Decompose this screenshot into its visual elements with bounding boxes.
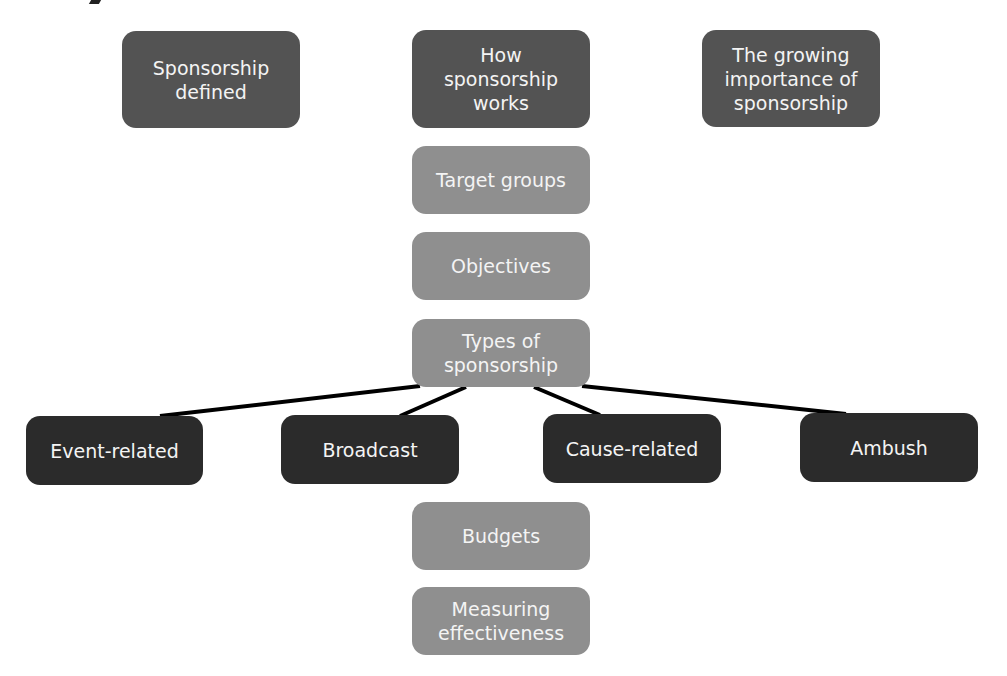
connector-event-related — [160, 386, 420, 416]
node-cause-related: Cause-related — [543, 414, 721, 483]
node-growing-importance: The growing importance of sponsorship — [702, 30, 880, 127]
node-broadcast: Broadcast — [281, 415, 459, 484]
node-types-of-sponsorship: Types of sponsorship — [412, 319, 590, 387]
connector-broadcast — [400, 387, 466, 416]
node-budgets: Budgets — [412, 502, 590, 570]
node-target-groups: Target groups — [412, 146, 590, 214]
connector-ambush — [582, 386, 846, 414]
node-event-related: Event-related — [26, 416, 203, 485]
node-measuring-effectiveness: Measuring effectiveness — [412, 587, 590, 655]
node-objectives: Objectives — [412, 232, 590, 300]
node-ambush: Ambush — [800, 413, 978, 482]
node-sponsorship-defined: Sponsorship defined — [122, 31, 300, 128]
node-how-sponsorship-works: How sponsorship works — [412, 30, 590, 128]
connector-cause-related — [534, 387, 600, 415]
